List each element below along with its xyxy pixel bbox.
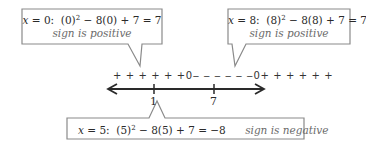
sign-row-middle: ‒ ‒ ‒ ‒ ‒ ‒ xyxy=(193,70,254,81)
callout-right-text: x = 8: (8)2 − 8(8) + 7 = 7 sign is posit… xyxy=(228,12,350,40)
sign-row-right: + + + + + + xyxy=(260,70,333,81)
tick-label-1: 1 xyxy=(150,95,157,108)
callout-left-equation: x = 0: (0)2 − 8(0) + 7 = 7 xyxy=(22,12,162,27)
callout-bottom-equation: x = 5: (5)2 − 8(5) + 7 = −8 xyxy=(78,124,226,136)
tick-label-7: 7 xyxy=(210,95,217,108)
callout-bottom-text: x = 5: (5)2 − 8(5) + 7 = −8 sign is nega… xyxy=(78,122,328,137)
callout-right-equation: x = 8: (8)2 − 8(8) + 7 = 7 xyxy=(228,12,350,27)
callout-bottom-sign: sign is negative xyxy=(245,124,328,136)
callout-left-sign: sign is positive xyxy=(22,27,162,40)
callout-left-text: x = 0: (0)2 − 8(0) + 7 = 7 sign is posit… xyxy=(22,12,162,40)
callout-right-sign: sign is positive xyxy=(228,27,350,40)
sign-row: + + + + + +0‒ ‒ ‒ ‒ ‒ ‒0+ + + + + + xyxy=(113,70,333,81)
sign-row-zero-1: 0 xyxy=(186,70,193,81)
sign-row-left: + + + + + + xyxy=(113,70,186,81)
